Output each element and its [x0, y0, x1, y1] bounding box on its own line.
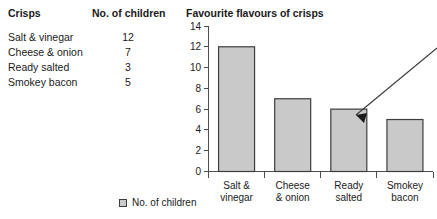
y-tick-label: 12 — [190, 41, 202, 52]
x-tick-label: bacon — [391, 192, 418, 203]
bar — [219, 47, 255, 172]
chart-plot-area: 02468101214 Salt &vinegarCheese& onionRe… — [186, 0, 437, 219]
row-flavour-label: Salt & vinegar — [8, 31, 92, 43]
y-axis-ticks: 02468101214 — [190, 21, 209, 178]
y-tick-label: 4 — [195, 124, 201, 135]
chart-legend: No. of children — [119, 197, 196, 208]
x-tick-label: Smokey — [387, 180, 423, 191]
x-tick-label: vinegar — [220, 192, 253, 203]
x-axis-separators — [209, 172, 434, 179]
table-row: Cheese & onion 7 — [8, 46, 173, 61]
table-row: Ready salted 3 — [8, 61, 173, 76]
row-flavour-label: Cheese & onion — [8, 46, 92, 58]
y-tick-label: 10 — [190, 62, 202, 73]
y-tick-label: 14 — [190, 21, 202, 32]
y-tick-label: 8 — [195, 83, 201, 94]
crisps-data-table: Crisps No. of children Salt & vinegar 12… — [8, 7, 173, 91]
x-axis-labels: Salt &vinegarCheese& onionReadysaltedSmo… — [220, 180, 423, 203]
legend-swatch-no-of-children — [119, 199, 127, 207]
bar — [387, 120, 423, 172]
bar-series — [219, 47, 423, 172]
bar-chart: Favourite flavours of crisps 02468101214… — [186, 0, 437, 219]
table-header-row: Crisps No. of children — [8, 7, 173, 22]
table-row: Salt & vinegar 12 — [8, 31, 173, 46]
x-tick-label: Ready — [334, 180, 363, 191]
column-header-no-of-children: No. of children — [92, 7, 164, 19]
x-tick-label: Salt & — [223, 180, 250, 191]
legend-label: No. of children — [132, 197, 196, 208]
pointer-arrow — [356, 48, 437, 123]
row-count-value: 7 — [92, 46, 164, 58]
row-flavour-label: Ready salted — [8, 61, 92, 73]
bar — [275, 99, 311, 172]
x-tick-label: salted — [335, 192, 362, 203]
y-tick-label: 2 — [195, 145, 201, 156]
x-tick-label: Cheese — [275, 180, 310, 191]
column-header-crisps: Crisps — [8, 7, 92, 19]
row-count-value: 12 — [92, 31, 164, 43]
x-tick-label: & onion — [276, 192, 310, 203]
row-flavour-label: Smokey bacon — [8, 76, 92, 88]
row-count-value: 3 — [92, 61, 164, 73]
y-tick-label: 6 — [195, 104, 201, 115]
y-tick-label: 0 — [195, 166, 201, 177]
row-count-value: 5 — [92, 76, 164, 88]
table-row: Smokey bacon 5 — [8, 76, 173, 91]
